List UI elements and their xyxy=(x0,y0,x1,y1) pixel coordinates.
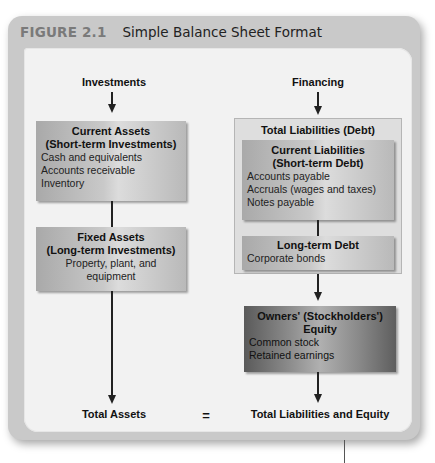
list-item: Accounts receivable xyxy=(41,164,181,177)
fixed-assets-title: Fixed Assets xyxy=(41,231,181,244)
list-item: Property, plant, and equipment xyxy=(41,257,181,283)
total-assets-label: Total Assets xyxy=(54,408,174,420)
page-edge-line xyxy=(344,440,345,463)
connector-line xyxy=(111,201,113,227)
connector-line xyxy=(111,291,113,397)
connector-line xyxy=(317,220,319,236)
connector-line xyxy=(317,372,319,396)
list-item: Notes payable xyxy=(247,196,389,209)
figure-number: FIGURE 2.1 xyxy=(20,24,107,40)
long-term-debt-box: Long-term Debt Corporate bonds xyxy=(242,236,394,270)
list-item: Accruals (wages and taxes) xyxy=(247,183,389,196)
total-liabilities-title: Total Liabilities (Debt) xyxy=(234,124,402,136)
list-item: Corporate bonds xyxy=(247,252,389,265)
current-assets-title: Current Assets xyxy=(41,125,181,138)
arrow-down-icon xyxy=(314,106,322,115)
equity-subtitle: Equity xyxy=(249,323,391,336)
list-item: Cash and equivalents xyxy=(41,151,181,164)
list-item: Retained earnings xyxy=(249,349,391,362)
current-assets-subtitle: (Short-term Investments) xyxy=(41,138,181,151)
investments-heading: Investments xyxy=(54,76,174,88)
arrow-down-icon xyxy=(108,104,116,113)
total-liabilities-equity-label: Total Liabilities and Equity xyxy=(240,408,400,420)
figure-title-bar: FIGURE 2.1 Simple Balance Sheet Format xyxy=(20,22,322,42)
financing-heading: Financing xyxy=(258,76,378,88)
figure-title: Simple Balance Sheet Format xyxy=(123,24,322,40)
current-assets-box: Current Assets (Short-term Investments) … xyxy=(36,121,186,201)
current-liabilities-title: Current Liabilities xyxy=(247,144,389,157)
arrow-down-icon xyxy=(314,292,322,301)
equity-title: Owners' (Stockholders') xyxy=(249,310,391,323)
current-liabilities-box: Current Liabilities (Short-term Debt) Ac… xyxy=(242,140,394,220)
connector-line xyxy=(317,274,319,294)
list-item: Inventory xyxy=(41,177,181,190)
equity-box: Owners' (Stockholders') Equity Common st… xyxy=(244,306,396,372)
equals-sign: = xyxy=(196,408,216,423)
arrow-down-icon xyxy=(314,394,322,403)
long-term-debt-title: Long-term Debt xyxy=(247,239,389,252)
fixed-assets-subtitle: (Long-term Investments) xyxy=(41,244,181,257)
fixed-assets-box: Fixed Assets (Long-term Investments) Pro… xyxy=(36,227,186,291)
list-item: Common stock xyxy=(249,336,391,349)
list-item: Accounts payable xyxy=(247,170,389,183)
current-liabilities-subtitle: (Short-term Debt) xyxy=(247,157,389,170)
arrow-down-icon xyxy=(108,395,116,404)
